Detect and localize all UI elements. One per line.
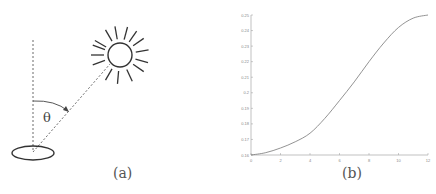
y-tick-label: 0.21 <box>241 75 250 80</box>
y-tick-label: 0.16 <box>241 153 250 158</box>
x-tick-label: 12 <box>426 158 431 163</box>
y-tick-label: 0.23 <box>241 44 250 49</box>
sun-ray <box>136 50 149 52</box>
y-tick-label: 0.2 <box>243 90 249 95</box>
sun-ray <box>115 26 117 39</box>
line-chart: 0246810120.160.170.180.190.20.210.220.23… <box>220 0 436 194</box>
panel-a-diagram: θ (a) <box>0 0 220 194</box>
caption-a: (a) <box>113 165 132 181</box>
sun-direction-line <box>33 64 110 152</box>
y-tick-label: 0.18 <box>241 121 250 126</box>
y-tick-label: 0.24 <box>241 28 250 33</box>
y-tick-label: 0.17 <box>241 137 250 142</box>
x-tick-label: 0 <box>250 158 253 163</box>
theta-label: θ <box>43 110 51 125</box>
arrow-head-icon <box>63 106 69 112</box>
sun-disc <box>108 43 132 67</box>
sun-ray <box>133 38 144 45</box>
y-tick-label: 0.19 <box>241 106 250 111</box>
y-tick-label: 0.25 <box>241 13 250 18</box>
sun-ray <box>127 70 132 82</box>
sun-ray <box>133 64 144 71</box>
sun-ray <box>117 71 118 84</box>
panel-b-chart: 0246810120.160.170.180.190.20.210.220.23… <box>220 0 436 194</box>
sun-ray <box>124 27 127 40</box>
x-tick-label: 2 <box>279 158 282 163</box>
y-tick-label: 0.22 <box>241 59 250 64</box>
caption-b: (b) <box>342 165 362 181</box>
sun-ray <box>106 69 113 80</box>
sun-ray <box>135 59 148 62</box>
sun-ray <box>93 60 105 64</box>
sun-ray <box>106 30 113 41</box>
x-tick-label: 8 <box>368 158 371 163</box>
x-tick-label: 6 <box>338 158 341 163</box>
sun-ray <box>129 31 136 42</box>
sun-angle-diagram: θ <box>0 0 220 194</box>
series-line-curve <box>251 15 428 155</box>
x-tick-label: 10 <box>396 158 401 163</box>
x-tick-label: 4 <box>309 158 312 163</box>
